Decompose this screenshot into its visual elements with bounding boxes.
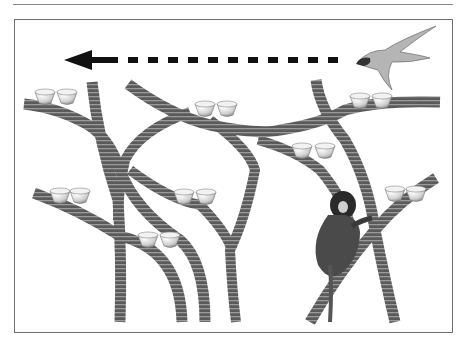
raptor-icon [356, 26, 436, 90]
foraging-scene [0, 0, 466, 348]
flight-arrow [64, 50, 345, 70]
